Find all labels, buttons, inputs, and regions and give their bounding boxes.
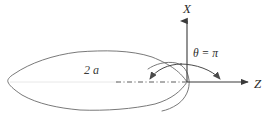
lobe-size-label: 2 a bbox=[84, 63, 99, 77]
main-lobe-outline bbox=[8, 51, 187, 110]
angle-arc-right bbox=[180, 64, 220, 79]
radiation-lobe-figure: X Z 2 a θ = π bbox=[0, 0, 271, 122]
z-axis-label: Z bbox=[254, 76, 262, 91]
figure-canvas: X Z 2 a θ = π bbox=[0, 0, 271, 122]
x-axis-label: X bbox=[182, 1, 192, 16]
angle-label: θ = π bbox=[193, 47, 219, 59]
